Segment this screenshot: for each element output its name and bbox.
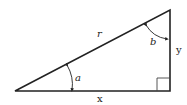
label-x: x [97, 94, 103, 104]
triangle-figure [0, 0, 187, 105]
right-angle-marker [157, 78, 170, 91]
triangle-diagram: r b y a x [0, 0, 187, 105]
label-b: b [150, 37, 156, 47]
label-y: y [176, 45, 182, 55]
triangle-outline [15, 10, 170, 91]
angle-a-arc [67, 65, 72, 90]
label-r: r [97, 29, 102, 39]
label-a: a [75, 73, 81, 83]
